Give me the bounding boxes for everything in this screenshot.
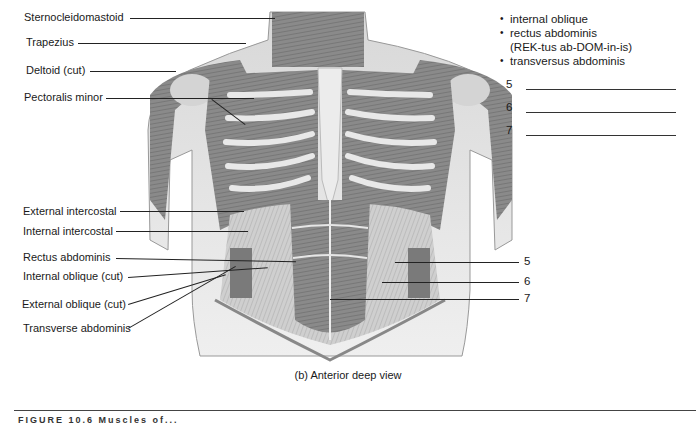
callout-number-6: 6 (524, 275, 530, 287)
blank-number: 7 (506, 124, 512, 136)
blank-number: 6 (506, 101, 512, 113)
blank-line[interactable] (526, 135, 676, 136)
label-internal-oblique-cut: Internal oblique (cut) (23, 270, 123, 283)
leader-line (120, 211, 244, 212)
callout-number-5: 5 (524, 255, 530, 267)
label-external-oblique-cut: External oblique (cut) (22, 298, 126, 311)
word-bank-item: rectus abdominis (500, 26, 632, 40)
label-rectus-abdominis: Rectus abdominis (23, 251, 110, 264)
leader-line (78, 43, 246, 44)
label-internal-intercostal: Internal intercostal (23, 225, 113, 238)
word-bank-item: internal oblique (500, 12, 632, 26)
label-pectoralis-minor: Pectoralis minor (24, 91, 103, 104)
answer-blank-5[interactable]: 5 (506, 78, 512, 90)
figure-label: FIGURE 10.6 Muscles of... (18, 415, 179, 425)
word-bank-item: transversus abdominis (500, 54, 632, 68)
leader-line (116, 231, 248, 232)
pronunciation-guide: (REK-tus ab-DOM-in-is) (500, 40, 632, 54)
leader-line-6 (382, 282, 519, 283)
label-trapezius: Trapezius (26, 36, 74, 49)
word-bank: internal oblique rectus abdominis (REK-t… (500, 12, 632, 68)
blank-line[interactable] (526, 112, 676, 113)
leader-line-7 (330, 299, 519, 300)
leader-line-5 (395, 262, 519, 263)
leader-line (90, 71, 176, 72)
label-external-intercostal: External intercostal (23, 205, 117, 218)
leader-line (106, 98, 254, 99)
answer-blank-6[interactable]: 6 (506, 101, 512, 113)
label-deltoid-cut: Deltoid (cut) (26, 64, 85, 77)
blank-line[interactable] (526, 89, 676, 90)
callout-number-7: 7 (524, 292, 530, 304)
label-sternocleidomastoid: Sternocleidomastoid (24, 11, 124, 24)
label-transverse-abdominis: Transverse abdominis (23, 322, 131, 335)
leader-line (130, 18, 275, 19)
blank-number: 5 (506, 78, 512, 90)
view-caption: (b) Anterior deep view (0, 369, 696, 381)
answer-blank-7[interactable]: 7 (506, 124, 512, 136)
divider (14, 410, 696, 411)
